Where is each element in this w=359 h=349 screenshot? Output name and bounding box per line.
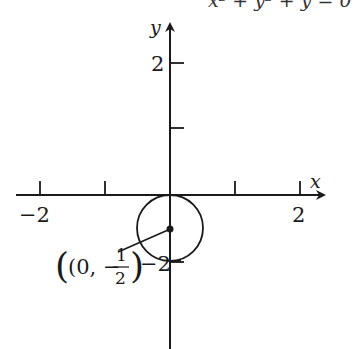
- x-tick-label-2: 2: [292, 203, 305, 227]
- svg-text:): ): [130, 245, 144, 286]
- x-tick-label-neg2: −2: [19, 203, 50, 227]
- svg-text:(0, −: (0, −: [68, 255, 121, 279]
- y-axis-label: y: [149, 16, 161, 38]
- coordinate-plot: y x −2 2 2 −2 ( (0, − 1 2 ): [0, 0, 359, 349]
- svg-text:1: 1: [116, 245, 127, 265]
- y-ticks: [170, 63, 184, 262]
- x-axis-label: x: [310, 170, 321, 192]
- svg-text:2: 2: [115, 268, 126, 288]
- svg-text:(: (: [55, 245, 69, 286]
- y-tick-label-neg2: −2: [140, 252, 171, 276]
- y-tick-label-2: 2: [151, 52, 164, 76]
- center-point: [167, 226, 174, 233]
- point-annotation: ( (0, − 1 2 ): [55, 245, 144, 288]
